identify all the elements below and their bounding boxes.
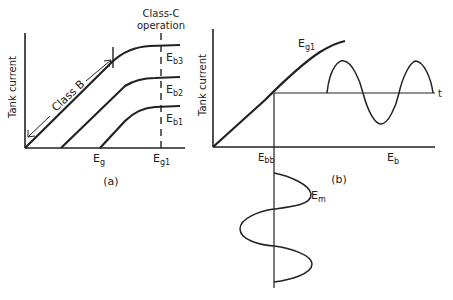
label-eb1: Eb1 [166, 112, 183, 127]
tick-label-eg: Eg [93, 152, 105, 167]
panel-a-caption: (a) [103, 175, 118, 188]
modulation-waveform [240, 173, 312, 282]
panel-b-y-label: Tank current [197, 54, 208, 117]
label-eb3: Eb3 [166, 51, 183, 66]
panel-a-y-label: Tank current [7, 56, 18, 119]
class-c-operation-label: operation [137, 20, 185, 31]
class-b-label: Class B [49, 77, 87, 114]
tick-label-eg1: Eg1 [153, 152, 170, 167]
time-label: t [438, 88, 442, 99]
mod-label-em: Em [311, 189, 326, 204]
curve-label-eg1: Eg1 [298, 37, 315, 52]
tick-label-ebb: Ebb [258, 152, 274, 165]
x-label-eb: Eb [387, 151, 399, 166]
panel-b [213, 29, 435, 288]
class-b-arrow-upper [86, 60, 111, 81]
diagram-canvas: Tank current Class B Class-C operation E… [0, 0, 453, 300]
panel-a [25, 33, 185, 148]
label-eb2: Eb2 [166, 83, 183, 98]
curve-eb3 [25, 45, 180, 148]
class-c-label: Class-C [143, 8, 180, 19]
panel-b-caption: (b) [331, 173, 347, 186]
curve-eg1 [213, 41, 345, 147]
